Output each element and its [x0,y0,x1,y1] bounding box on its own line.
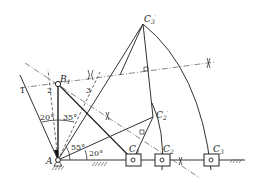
joint-A [56,158,61,163]
angle-arc-55 [66,146,70,160]
linkage-diagram: A B1 C1 C2 C3 C2′ C3′ 1 2 3 20° 35° 55° … [0,0,261,182]
label-C3: C3 [213,144,224,155]
label-C2: C2 [163,144,174,155]
arc-C3 [143,24,211,170]
angle-label-35: 35° [63,113,77,122]
label-C3-prime: C3′ [144,13,157,25]
right-angle-mark-2 [140,130,144,134]
label-B1: B1 [59,74,70,85]
slider-C2 [155,154,170,166]
bisector-arc-marks [88,58,210,165]
line-AC3p [58,24,143,160]
angle-label-20-right: 20° [89,149,103,158]
label-C2-prime: C2′ [156,109,169,121]
angle-label-55: 55° [71,143,85,152]
label-line-3: 3 [86,86,91,95]
angle-label-20-left: 20° [40,113,54,122]
label-C1: C1 [129,144,140,155]
slider-C3 [204,154,219,166]
label-A: A [45,156,53,166]
angle-arc-20 [85,150,87,160]
label-line-1: 1 [20,86,25,95]
slider-C1 [126,154,141,166]
line-C3p-left [120,24,143,75]
label-line-2: 2 [47,86,52,95]
